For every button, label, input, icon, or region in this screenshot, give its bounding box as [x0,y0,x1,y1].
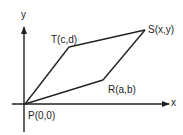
parallelogram-diagram: y x T(c,d) S(x,y) R(a,b) P(0,0) [0,0,183,135]
edge-p-r [25,80,103,104]
vertex-label-s: S(x,y) [148,25,174,35]
edge-t-p [25,47,69,104]
vertex-label-p: P(0,0) [28,111,55,121]
y-axis-label: y [21,10,26,20]
x-axis-label: x [171,98,176,108]
vertex-label-t: T(c,d) [51,35,77,45]
vertex-label-r: R(a,b) [108,85,136,95]
